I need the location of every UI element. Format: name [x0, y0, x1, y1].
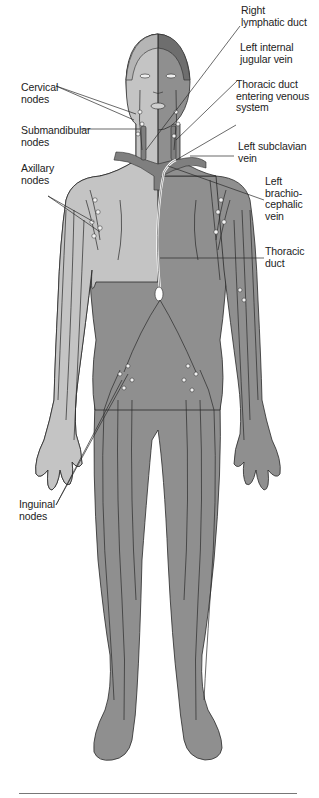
label-left-brachiocephalic-vein: Left brachio- cephalic vein [265, 176, 303, 222]
label-axillary-nodes: Axillary nodes [21, 163, 54, 186]
label-left-subclavian-vein: Left subclavian vein [238, 141, 307, 164]
label-submandibular-nodes: Submandibular nodes [21, 125, 90, 148]
label-thoracic-duct-entering-venous-system: Thoracic duct entering venous system [236, 79, 309, 114]
label-inguinal-nodes: Inguinal nodes [19, 499, 55, 522]
cisterna-chyli [155, 287, 163, 301]
lymphatic-system-illustration [0, 0, 319, 798]
label-left-internal-jugular-vein: Left internal jugular vein [240, 42, 294, 65]
label-right-lymphatic-duct: Right lymphatic duct [241, 5, 307, 28]
bottom-rule [19, 793, 297, 794]
label-cervical-nodes: Cervical nodes [21, 82, 58, 105]
label-thoracic-duct: Thoracic duct [265, 246, 304, 269]
